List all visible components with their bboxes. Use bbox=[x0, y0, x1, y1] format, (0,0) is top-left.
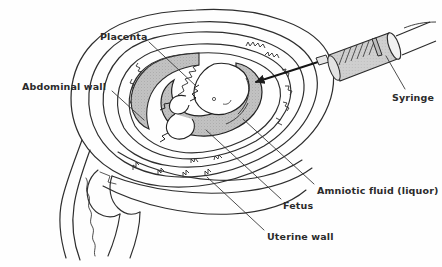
diagram-drawing bbox=[0, 0, 442, 267]
label-syringe: Syringe bbox=[392, 92, 434, 103]
syringe-needle bbox=[256, 62, 318, 82]
label-placenta: Placenta bbox=[100, 31, 148, 42]
lower-uterine-segment bbox=[103, 152, 312, 214]
label-amniotic-fluid: Amniotic fluid (liquor) bbox=[317, 185, 438, 196]
label-uterine-wall: Uterine wall bbox=[267, 231, 334, 242]
amniocentesis-diagram: Placenta Abdominal wall Syringe Amniotic… bbox=[0, 0, 442, 267]
lower-abdominal-wall bbox=[60, 140, 95, 260]
label-abdominal-wall: Abdominal wall bbox=[22, 81, 106, 92]
leader-uterine-wall bbox=[207, 177, 264, 230]
label-fetus: Fetus bbox=[283, 200, 313, 211]
fetus-shape bbox=[160, 63, 262, 142]
leader-syringe bbox=[386, 56, 405, 89]
